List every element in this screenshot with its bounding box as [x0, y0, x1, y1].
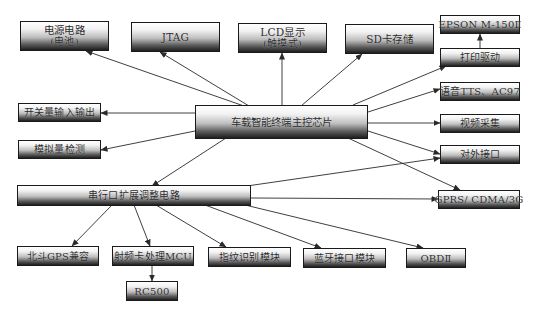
node-beidou-label: 北斗GPS兼容	[27, 251, 90, 262]
edge-bus-bluetooth	[205, 205, 321, 248]
node-bluetooth-module: 蓝牙接口模块	[303, 248, 386, 268]
node-rc500-label: RC500	[134, 286, 169, 297]
node-switch-io-label: 开关量输入输出	[24, 107, 95, 118]
node-epson-printer: EPSON M-150Ⅱ	[440, 15, 520, 34]
node-power-label: 电源电路	[44, 24, 85, 36]
node-power-circuit: 电源电路 (电池)	[20, 21, 109, 51]
node-bluetooth-label: 蓝牙接口模块	[314, 253, 375, 264]
node-switch-io: 开关量输入输出	[18, 103, 101, 122]
node-center-label: 车载智能终端主控芯片	[231, 116, 333, 128]
node-bus-label: 串行口扩展调整电路	[88, 190, 180, 201]
node-beidou-gps: 北斗GPS兼容	[17, 246, 99, 266]
node-sd-storage: SD卡存储	[345, 24, 434, 54]
node-printer-label: EPSON M-150Ⅱ	[439, 19, 522, 30]
node-fingerprint-module: 指纹识别模块	[208, 247, 291, 267]
node-obd2: OBDⅡ	[406, 248, 466, 268]
node-rfid-label: 射频卡处理MCU	[114, 251, 192, 262]
edge-center-external	[368, 131, 440, 154]
node-obd-label: OBDⅡ	[420, 253, 451, 264]
node-print-driver-label: 打印驱动	[460, 52, 501, 63]
node-tts-ac97: 语音TTS、AC97	[440, 82, 520, 101]
system-block-diagram: 电源电路 (电池) JTAG LCD显示 (触摸式) SD卡存储 EPSON M…	[0, 0, 534, 313]
node-video-label: 视频采集	[460, 118, 501, 129]
edge-bus-external	[240, 158, 440, 187]
node-rc500: RC500	[126, 281, 178, 301]
node-main-controller: 车载智能终端主控芯片	[195, 105, 368, 139]
edge-bus-fingerprint	[156, 205, 226, 247]
edge-center-power	[86, 51, 244, 106]
node-tts-label: 语音TTS、AC97	[440, 86, 520, 97]
node-fingerprint-label: 指纹识别模块	[219, 252, 280, 263]
node-video-capture: 视频采集	[440, 114, 520, 133]
edge-center-sd	[301, 54, 362, 106]
node-analog-label: 模拟量检测	[34, 144, 85, 155]
node-rfid-mcu: 射频卡处理MCU	[112, 246, 194, 266]
node-jtag: JTAG	[131, 22, 220, 52]
node-external-label: 对外接口	[460, 149, 501, 160]
edge-bus-beidou	[72, 205, 112, 246]
node-jtag-label: JTAG	[162, 31, 189, 43]
edge-center-jtag	[160, 52, 249, 106]
node-lcd-display: LCD显示 (触摸式)	[238, 23, 327, 53]
edge-center-bus	[152, 138, 226, 186]
edge-bus-gprs	[251, 198, 438, 199]
edge-center-analog	[101, 131, 195, 150]
node-analog-detect: 模拟量检测	[18, 140, 101, 159]
node-print-driver: 打印驱动	[440, 48, 520, 67]
node-gprs-cdma-3g: GPRS/ CDMA/3G	[438, 190, 520, 209]
edge-center-print-driver	[353, 66, 446, 105]
edge-center-tts	[368, 89, 440, 112]
edge-bus-rfid	[134, 205, 150, 246]
node-lcd-sublabel: (触摸式)	[263, 38, 302, 50]
node-external-interface: 对外接口	[440, 145, 520, 164]
node-gprs-label: GPRS/ CDMA/3G	[434, 194, 523, 205]
node-serial-expansion-bus: 串行口扩展调整电路	[17, 185, 251, 206]
node-power-sublabel: (电池)	[50, 36, 79, 48]
edge-bus-obd	[245, 205, 423, 248]
node-lcd-label: LCD显示	[260, 26, 304, 38]
node-sd-label: SD卡存储	[366, 33, 413, 45]
